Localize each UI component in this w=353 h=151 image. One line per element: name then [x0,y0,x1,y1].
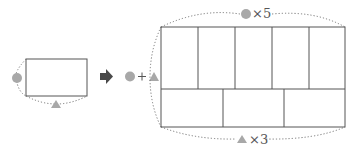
bottom-dotted-arc-right [266,127,345,139]
diagram-canvas [0,0,353,151]
bottom-dotted-arc-left [161,127,236,139]
right-arrow-icon [100,69,113,84]
small-rectangle [26,59,87,96]
circle-icon [125,72,135,82]
top-multiplier-label: ×5 [252,7,271,20]
top-dotted-arc-right [272,13,345,27]
operator-group [125,72,159,82]
triangle-icon [51,100,61,108]
big-rectangle [161,27,345,127]
big-figure [150,9,345,143]
bottom-multiplier-label: ×3 [249,133,268,146]
circle-icon [241,9,251,19]
triangle-icon [149,72,159,81]
small-figure [12,59,87,108]
top-dotted-arc-left [161,13,240,27]
circle-icon [12,73,22,83]
triangle-icon [237,135,247,143]
